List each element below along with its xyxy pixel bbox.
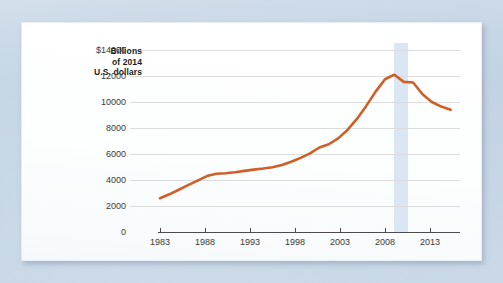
x-tick-label-1988: 1988 [185, 237, 225, 247]
x-tick-mark-1983 [160, 228, 161, 232]
x-tick-label-2008: 2008 [365, 237, 405, 247]
x-axis-line [158, 232, 460, 233]
y-tick-label-4000: 4000 [68, 175, 126, 185]
figure-card: Billions of 2014 U.S. dollars $14000 120… [21, 22, 482, 261]
x-tick-label-1983: 1983 [140, 237, 180, 247]
x-tick-label-1998: 1998 [275, 237, 315, 247]
y-tick-label-10000: 10000 [68, 97, 126, 107]
x-tick-label-1993: 1993 [230, 237, 270, 247]
x-tick-mark-2008 [385, 228, 386, 232]
y-tick-label-6000: 6000 [68, 149, 126, 159]
x-tick-label-2003: 2003 [320, 237, 360, 247]
x-tick-mark-1988 [205, 228, 206, 232]
screenshot-root: Billions of 2014 U.S. dollars $14000 120… [0, 0, 503, 283]
x-tick-mark-2003 [340, 228, 341, 232]
y-tick-label-2000: 2000 [68, 201, 126, 211]
y-tick-label-12000: 12000 [68, 71, 126, 81]
chart-plot-area: Billions of 2014 U.S. dollars $14000 120… [22, 23, 481, 260]
y-axis-title-line-2: of 2014 [74, 57, 142, 68]
x-tick-mark-2013 [430, 228, 431, 232]
y-tick-label-0: 0 [68, 227, 126, 237]
y-tick-label-14000: $14000 [68, 45, 126, 55]
y-tick-label-8000: 8000 [68, 123, 126, 133]
x-tick-label-2013: 2013 [410, 237, 450, 247]
x-tick-mark-1998 [295, 228, 296, 232]
x-tick-mark-1993 [250, 228, 251, 232]
